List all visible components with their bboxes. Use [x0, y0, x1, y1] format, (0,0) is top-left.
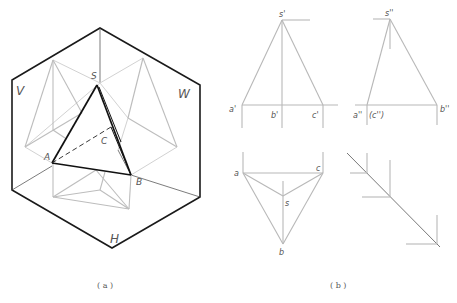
- label-s-prime: s': [279, 10, 285, 19]
- axis-x: [12, 166, 52, 190]
- label-b: b: [279, 248, 284, 257]
- top-view: a c s b: [234, 152, 323, 257]
- point-label-b: B: [136, 177, 142, 187]
- caption-b: ( b ): [330, 281, 346, 290]
- plane-edge: [100, 58, 143, 83]
- point-label-s: S: [91, 71, 97, 81]
- point-label-c: C: [101, 136, 108, 146]
- label-a-prime: a': [229, 105, 236, 114]
- label-s-double-prime: s'': [385, 9, 394, 18]
- caption-a: ( a ): [97, 281, 113, 290]
- miter-construction: [347, 153, 440, 247]
- miter-line: [347, 153, 440, 247]
- isometric-view: V W H S A B C ( a ): [12, 28, 200, 290]
- label-a: a: [234, 169, 239, 178]
- edge-bc: [111, 127, 131, 175]
- front-view: s' a' b' c': [229, 10, 338, 128]
- point-label-a: A: [43, 152, 50, 162]
- label-c: c: [316, 164, 321, 173]
- plane-label-h: H: [110, 232, 119, 246]
- label-c-double-prime: (c''): [369, 111, 384, 120]
- label-s: s: [285, 199, 289, 208]
- label-a-double-prime: a'': [353, 111, 362, 120]
- label-b-prime: b': [271, 111, 278, 120]
- side-view: s'' a'' (c'') b'': [353, 9, 449, 125]
- w-plane-projection: [128, 58, 177, 147]
- v-plane-projection: [25, 60, 82, 147]
- label-b-double-prime: b'': [440, 105, 449, 114]
- orthographic-views: s' a' b' c' s'' a'' (c'') b'': [229, 9, 449, 290]
- plane-edge: [131, 147, 177, 175]
- pyramid-sabc: [52, 85, 131, 175]
- plane-label-w: W: [178, 87, 191, 101]
- three-view-projection-diagram: V W H S A B C ( a ) s' a' b' c': [0, 0, 457, 303]
- label-c-prime: c': [312, 111, 319, 120]
- plane-edge: [25, 83, 100, 147]
- plane-label-v: V: [16, 84, 25, 98]
- edge-sa: [52, 85, 97, 163]
